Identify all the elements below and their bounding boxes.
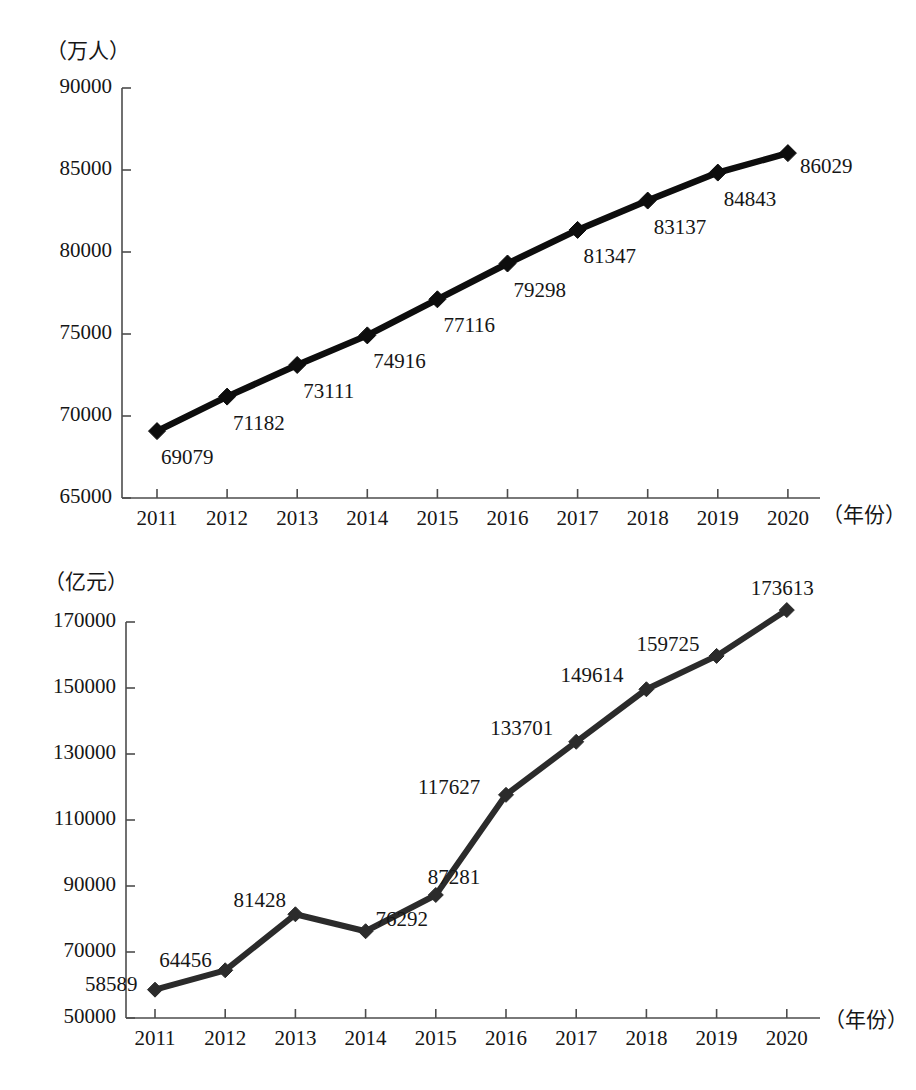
data-point-label: 58589 [85, 972, 138, 997]
y-axis-tick-label: 90000 [0, 74, 112, 99]
data-point-label: 64456 [159, 948, 212, 973]
data-point-label: 133701 [490, 716, 553, 741]
y-axis-tick-label: 110000 [0, 806, 116, 831]
data-point-label: 84843 [724, 187, 777, 212]
x-axis-name: （年份） [824, 1003, 908, 1033]
population-chart-canvas [0, 0, 916, 545]
y-axis-tick-label: 80000 [0, 238, 112, 263]
y-axis-tick-label: 70000 [0, 402, 112, 427]
x-axis-name: （年份） [822, 498, 906, 528]
data-point-label: 86029 [800, 154, 853, 179]
y-axis-tick-label: 130000 [0, 740, 116, 765]
data-point-label: 79298 [514, 278, 567, 303]
data-point-label: 173613 [751, 576, 814, 601]
data-point-label: 76292 [376, 907, 429, 932]
y-axis-tick-label: 170000 [0, 608, 116, 633]
data-point-label: 69079 [161, 445, 214, 470]
y-axis-unit-label: （万人） [46, 34, 130, 64]
data-point-marker [709, 164, 726, 181]
y-axis-tick-label: 65000 [0, 484, 112, 509]
data-point-label: 74916 [373, 349, 426, 374]
x-axis-tick-label: 2020 [742, 1026, 832, 1051]
data-point-label: 159725 [637, 632, 700, 657]
data-point-label: 83137 [654, 215, 707, 240]
data-series-line [157, 153, 788, 431]
data-series-line [155, 610, 787, 990]
data-point-label: 71182 [233, 411, 285, 436]
data-point-label: 117627 [418, 775, 480, 800]
y-axis-tick-label: 150000 [0, 674, 116, 699]
y-axis-tick-label: 50000 [0, 1004, 116, 1029]
data-point-label: 77116 [443, 313, 495, 338]
data-point-label: 73111 [303, 379, 354, 404]
data-point-label: 81428 [233, 888, 286, 913]
y-axis-tick-label: 70000 [0, 938, 116, 963]
y-axis-tick-label: 85000 [0, 156, 112, 181]
data-point-marker [148, 982, 163, 997]
chart-panel-gdp: （亿元） （年份） 500007000090000110000130000150… [0, 545, 916, 1090]
y-axis-tick-label: 75000 [0, 320, 112, 345]
data-point-label: 149614 [560, 663, 623, 688]
x-axis-tick-label: 2020 [743, 506, 833, 531]
chart-panel-population: （万人） （年份） 650007000075000800008500090000… [0, 0, 916, 545]
data-point-label: 87281 [428, 865, 481, 890]
gdp-chart-canvas [0, 545, 916, 1090]
dual-line-chart-figure: （万人） （年份） 650007000075000800008500090000… [0, 0, 916, 1090]
y-axis-unit-label: （亿元） [44, 565, 128, 595]
data-point-marker [779, 145, 796, 162]
y-axis-tick-label: 90000 [0, 872, 116, 897]
data-point-label: 81347 [584, 244, 637, 269]
